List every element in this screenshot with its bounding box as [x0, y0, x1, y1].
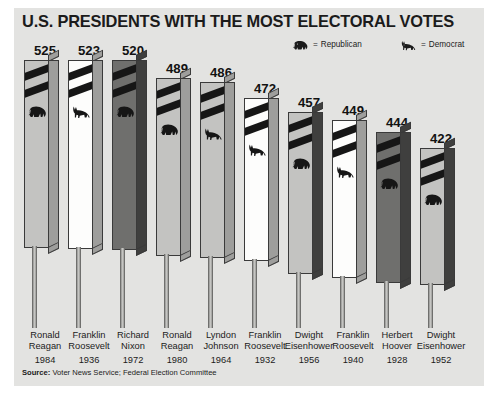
president-first-name: Dwight — [410, 330, 472, 341]
pillar-face — [112, 60, 137, 250]
pillar-pole — [32, 246, 37, 328]
source-prefix: Source: — [22, 368, 50, 377]
bar-value-label: 520 — [110, 43, 156, 58]
pillar-pole — [384, 281, 389, 328]
pillar-stripe — [288, 115, 313, 134]
bar-pillar — [112, 60, 148, 250]
bar-pillar — [332, 120, 368, 278]
pillar-stripe — [376, 135, 401, 154]
bar-pillar — [24, 60, 60, 248]
source-text: Voter News Service; Federal Election Com… — [52, 368, 216, 377]
bar-value-label: 444 — [374, 115, 420, 130]
election-year-label: 1952 — [410, 355, 472, 365]
pillar-pole — [120, 248, 125, 328]
elephant-icon — [291, 157, 313, 172]
bar-pillar — [244, 98, 280, 261]
pillar-stripe — [68, 80, 93, 99]
pillar-stripe — [288, 132, 313, 151]
pillar-stripe — [244, 118, 269, 137]
president-name-label: DwightEisenhower — [410, 330, 472, 351]
bar-value-label: 523 — [66, 43, 112, 58]
pillar-pole — [428, 283, 433, 328]
bar-value-label: 472 — [242, 81, 288, 96]
bar-value-label: 422 — [418, 131, 464, 146]
pillar-pole — [252, 259, 257, 328]
pillar-face — [376, 132, 401, 283]
bar-value-label: 525 — [22, 43, 68, 58]
pillar-stripe — [420, 168, 445, 187]
pillar-stripe — [112, 63, 137, 82]
pillar-side — [92, 60, 103, 249]
pillar-side — [268, 98, 279, 261]
pillar-stripe — [332, 123, 357, 142]
pillar-side — [444, 148, 455, 285]
bar-pillar — [420, 148, 456, 285]
elephant-icon — [159, 123, 181, 138]
bar-pillar — [376, 132, 412, 283]
bar-value-label: 486 — [198, 65, 244, 80]
bar-value-label: 457 — [286, 95, 332, 110]
donkey-icon — [203, 127, 225, 142]
pillar-stripe — [332, 140, 357, 159]
pillar-side — [224, 82, 235, 258]
bar-value-label: 449 — [330, 103, 376, 118]
pillar-face — [332, 120, 357, 278]
source-note: Source: Voter News Service; Federal Elec… — [22, 368, 217, 377]
pillar-stripe — [200, 102, 225, 121]
pillar-face — [24, 60, 49, 248]
elephant-icon — [115, 105, 137, 120]
pillar-pole — [340, 276, 345, 328]
pillar-stripe — [200, 85, 225, 104]
pillar-stripe — [68, 63, 93, 82]
bar-pillar — [200, 82, 236, 258]
pillar-side — [180, 78, 191, 256]
bar-pillar — [156, 78, 192, 256]
donkey-icon — [335, 165, 357, 180]
pillar-stripe — [112, 80, 137, 99]
pillar-stripe — [156, 81, 181, 100]
pillar-face — [420, 148, 445, 285]
donkey-icon — [71, 105, 93, 120]
pillar-side — [356, 120, 367, 278]
pillar-face — [200, 82, 225, 258]
pillar-face — [68, 60, 93, 249]
pillar-side — [400, 132, 411, 283]
pillar-stripe — [24, 63, 49, 82]
pillar-side — [312, 112, 323, 274]
pillar-face — [156, 78, 181, 256]
pillar-face — [244, 98, 269, 261]
elephant-icon — [423, 193, 445, 208]
pillar-side — [48, 60, 59, 248]
pillar-pole — [76, 247, 81, 328]
pillar-pole — [164, 254, 169, 328]
pillar-stripe — [376, 152, 401, 171]
pillar-pole — [296, 272, 301, 328]
infographic-page: U.S. PRESIDENTS WITH THE MOST ELECTORAL … — [0, 0, 499, 402]
bar-chart: 525RonaldReagan1984523FranklinRoosevelt1… — [14, 8, 484, 386]
pillar-pole — [208, 256, 213, 328]
elephant-icon — [379, 177, 401, 192]
pillar-stripe — [156, 98, 181, 117]
bar-pillar — [288, 112, 324, 274]
donkey-icon — [247, 143, 269, 158]
bar-pillar — [68, 60, 104, 249]
elephant-icon — [27, 105, 49, 120]
president-last-name: Eisenhower — [410, 341, 472, 352]
pillar-face — [288, 112, 313, 274]
bar-value-label: 489 — [154, 61, 200, 76]
pillar-stripe — [244, 101, 269, 120]
pillar-side — [136, 60, 147, 250]
pillar-stripe — [24, 80, 49, 99]
pillar-stripe — [420, 151, 445, 170]
